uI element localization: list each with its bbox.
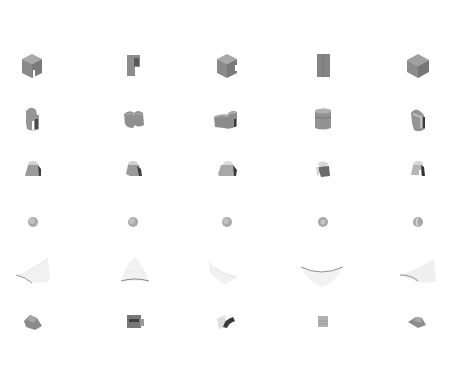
frustum-cap-icon: [2, 145, 62, 195]
sphere-icon: [197, 197, 257, 247]
frustum-cap-icon: [197, 145, 257, 195]
thumbnail-r6c2: [103, 297, 163, 347]
thumbnail-r3c5: [388, 145, 448, 195]
thumbnail-r3c2: [103, 145, 163, 195]
thumbnail-r3c3: [197, 145, 257, 195]
thumbnail-r4c5: [388, 197, 448, 247]
small-cube-icon: [293, 297, 353, 347]
thumbnail-r2c2: [103, 95, 163, 145]
sphere-crescent-icon: [388, 197, 448, 247]
point-cloud-sheet-icon: [103, 247, 163, 297]
frustum-cap-icon: [103, 145, 163, 195]
box-block-icon: [103, 297, 163, 347]
point-cloud-sheet-icon: [197, 247, 257, 297]
thumbnail-r4c1: [2, 197, 62, 247]
rounded-block-icon: [388, 95, 448, 145]
thumbnail-r1c1: [2, 41, 62, 91]
render-grid: [0, 0, 465, 383]
thumbnail-r2c5: [388, 95, 448, 145]
frustum-cap-icon: [293, 145, 353, 195]
thumbnail-r2c3: [197, 95, 257, 145]
cube-icon: [388, 41, 448, 91]
sphere-icon: [2, 197, 62, 247]
thumbnail-r2c1: [2, 95, 62, 145]
slab-icon: [293, 41, 353, 91]
rounded-bowl-icon: [103, 95, 163, 145]
thumbnail-r1c2: [103, 41, 163, 91]
curved-block-icon: [197, 297, 257, 347]
thumbnail-r2c4: [293, 95, 353, 145]
thumbnail-r4c4: [293, 197, 353, 247]
thumbnail-r4c2: [103, 197, 163, 247]
wedge-flat-icon: [388, 297, 448, 347]
thumbnail-r5c5: [388, 247, 448, 297]
thumbnail-r4c3: [197, 197, 257, 247]
sphere-icon: [103, 197, 163, 247]
thumbnail-r5c3: [197, 247, 257, 297]
rounded-wide-icon: [197, 95, 257, 145]
sphere-icon: [293, 197, 353, 247]
point-cloud-sheet-icon: [293, 247, 353, 297]
thumbnail-r6c3: [197, 297, 257, 347]
thumbnail-r5c1: [2, 247, 62, 297]
thumbnail-r6c1: [2, 297, 62, 347]
rounded-block-icon: [2, 95, 62, 145]
notched-slab-icon: [103, 41, 163, 91]
notched-cube-icon: [197, 41, 257, 91]
thumbnail-r1c4: [293, 41, 353, 91]
cylinder-block-icon: [293, 95, 353, 145]
thumbnail-r1c3: [197, 41, 257, 91]
thumbnail-r6c5: [388, 297, 448, 347]
thumbnail-r3c1: [2, 145, 62, 195]
point-cloud-sheet-icon: [2, 247, 62, 297]
frustum-cap-icon: [388, 145, 448, 195]
thumbnail-r1c5: [388, 41, 448, 91]
notched-cube-icon: [2, 41, 62, 91]
thumbnail-r6c4: [293, 297, 353, 347]
point-cloud-sheet-icon: [388, 247, 448, 297]
thumbnail-r5c2: [103, 247, 163, 297]
thumbnail-r3c4: [293, 145, 353, 195]
wedge-block-icon: [2, 297, 62, 347]
thumbnail-r5c4: [293, 247, 353, 297]
